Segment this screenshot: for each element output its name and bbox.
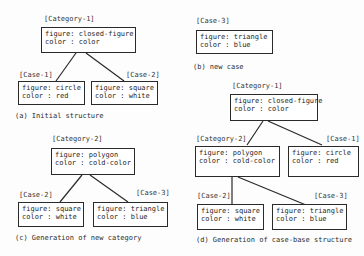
case-label: [Case-2] [126,71,160,79]
color-attr: color : red [22,92,81,100]
case-label: [Case-3] [136,189,170,197]
case-node: figure: triangle color : blue [93,202,168,227]
panel-caption: (a) Initial structure [15,112,104,120]
case-label: [Case-3] [314,192,348,200]
figure-attr: figure: polygon [55,151,131,159]
category-label: [Category-2] [52,135,103,143]
figure-attr: figure: square [95,84,154,92]
figure-attr: figure: circle [292,149,355,157]
case-node: figure: triangle color : blue [196,30,273,54]
case-label: [Case-1] [326,135,360,143]
figure-attr: figure: square [201,207,260,215]
color-attr: color : red [292,157,355,165]
color-attr: color : blue [200,41,269,49]
color-attr: color : cold-color [199,157,276,165]
category-node: figure: closed-figure color : color [41,27,136,53]
case-node: figure: square color : white [91,81,158,105]
category-node: figure: polygon color : cold-color [51,148,135,175]
case-label: [Case-1] [19,71,53,79]
figure-attr: figure: polygon [199,149,276,157]
figure-attr: figure: triangle [97,205,164,213]
color-attr: color : white [201,215,260,223]
panel-caption: (d) Generation of case-base structure [196,236,352,244]
figure-attr: figure: closed-figure [45,30,132,38]
category-label: [Category-2] [196,135,247,143]
panel-caption: (c) Generation of new category [15,234,141,242]
color-attr: color : blue [97,213,164,221]
case-node: figure: square color : white [197,204,264,230]
color-attr: color : cold-color [55,159,131,167]
case-base-diagram: [Category-1] figure: closed-figure color… [0,0,364,256]
case-node: figure: circle color : red [18,81,85,105]
color-attr: color : white [95,92,154,100]
color-attr: color : blue [276,215,343,223]
case-label: [Case-2] [19,191,53,199]
color-attr: color : white [22,213,80,221]
figure-attr: figure: closed-figure [234,97,314,105]
color-attr: color : color [45,38,132,46]
panel-caption: (b) new case [193,63,244,71]
category-node: figure: polygon color : cold-color [195,146,280,177]
category-node: figure: closed-figure color : color [230,94,318,121]
case-label: [Case-3] [196,17,230,25]
figure-attr: figure: triangle [276,207,343,215]
category-label: [Category-1] [44,15,95,23]
figure-attr: figure: triangle [200,33,269,41]
case-node: figure: square color : white [18,202,84,227]
case-node: figure: triangle color : blue [272,204,347,230]
figure-attr: figure: square [22,205,80,213]
color-attr: color : color [234,105,314,113]
figure-attr: figure: circle [22,84,81,92]
case-node: figure: circle color : red [288,146,359,177]
case-label: [Case-2] [197,192,231,200]
category-label: [Category-1] [232,82,283,90]
